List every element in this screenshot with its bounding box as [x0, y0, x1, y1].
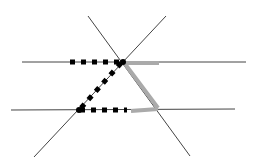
gray-z-segment — [131, 109, 158, 111]
gray-z-figure — [123, 63, 159, 111]
geometry-diagram — [0, 0, 255, 168]
transversal-ascending — [34, 16, 166, 157]
bottom-left-intersection-dot — [76, 107, 82, 113]
top-intersection-dot — [120, 59, 126, 65]
dashed-z-figure — [70, 62, 127, 110]
bottom-parallel-line — [11, 109, 235, 110]
transversals-group — [34, 16, 190, 157]
gray-z-segment — [125, 64, 158, 108]
